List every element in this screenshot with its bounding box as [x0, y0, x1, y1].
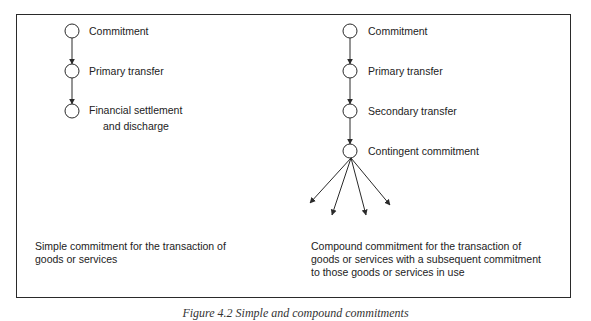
left-node-circle	[65, 64, 79, 78]
caption-line: goods or services	[35, 253, 226, 266]
right-node-label-contingent-commitment: Contingent commitment	[368, 145, 479, 157]
right-node-label-primary-transfer: Primary transfer	[368, 65, 443, 77]
label-line: Primary transfer	[368, 65, 443, 77]
left-node-label-financial-settlement: Financial settlement and discharge	[89, 104, 182, 132]
compound-commitment-flow	[310, 24, 390, 215]
right-node-circle	[343, 24, 357, 38]
simple-commitment-caption: Simple commitment for the transaction of…	[35, 240, 226, 266]
label-line: Commitment	[368, 25, 428, 37]
caption-line: goods or services with a subsequent comm…	[311, 253, 541, 266]
label-line: Primary transfer	[89, 65, 164, 77]
caption-line: Simple commitment for the transaction of	[35, 240, 226, 253]
left-node-circle	[65, 104, 79, 118]
right-node-circle	[343, 144, 357, 158]
label-line: Commitment	[89, 25, 149, 37]
right-node-circle	[343, 64, 357, 78]
label-line: and discharge	[89, 120, 182, 132]
fan-out-arrow	[310, 158, 351, 203]
compound-commitment-caption: Compound commitment for the transaction …	[311, 240, 541, 279]
right-node-label-secondary-transfer: Secondary transfer	[368, 105, 457, 117]
caption-line: to those goods or services in use	[311, 266, 541, 279]
label-line: Financial settlement	[89, 104, 182, 116]
label-line: Contingent commitment	[368, 145, 479, 157]
left-node-circle	[65, 24, 79, 38]
figure-caption: Figure 4.2 Simple and compound commitmen…	[0, 306, 591, 321]
left-node-label-commitment: Commitment	[89, 25, 149, 37]
right-node-circle	[343, 104, 357, 118]
right-node-label-commitment: Commitment	[368, 25, 428, 37]
caption-line: Compound commitment for the transaction …	[311, 240, 541, 253]
left-node-label-primary-transfer: Primary transfer	[89, 65, 164, 77]
simple-commitment-flow	[65, 24, 79, 118]
label-line: Secondary transfer	[368, 105, 457, 117]
fan-out-arrow	[332, 158, 351, 215]
